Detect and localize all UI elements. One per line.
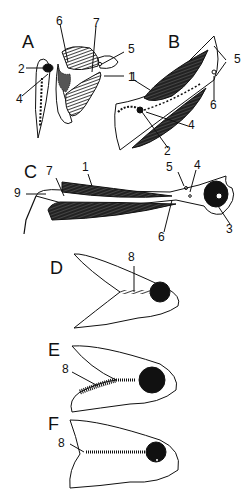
label-a-2: 2 <box>18 62 25 76</box>
label-c-9: 9 <box>14 186 21 200</box>
label-a-6: 6 <box>56 14 63 28</box>
panel-e-drawing <box>71 346 177 412</box>
diagram-canvas <box>0 0 252 498</box>
panel-f-drawing <box>70 420 179 488</box>
label-a-5: 5 <box>128 42 135 56</box>
label-d-8: 8 <box>128 250 135 264</box>
label-f-8: 8 <box>58 436 65 450</box>
panel-label-f: F <box>48 414 59 435</box>
label-c-3: 3 <box>226 222 233 236</box>
panel-label-d: D <box>50 258 63 279</box>
label-b-1: 1 <box>130 70 137 84</box>
label-e-8: 8 <box>62 362 69 376</box>
panel-a-drawing <box>35 47 118 138</box>
label-a-4: 4 <box>16 92 23 106</box>
label-a-7: 7 <box>93 16 100 30</box>
panel-label-e: E <box>48 340 60 361</box>
label-c-1: 1 <box>82 160 89 174</box>
label-c-7: 7 <box>46 164 53 178</box>
panel-label-b: B <box>168 32 180 53</box>
label-c-4: 4 <box>194 158 201 172</box>
panel-d-drawing <box>74 254 179 328</box>
panel-label-a: A <box>22 32 34 53</box>
label-b-5: 5 <box>234 52 241 66</box>
label-b-6: 6 <box>210 98 217 112</box>
label-b-2: 2 <box>164 144 171 158</box>
label-c-5: 5 <box>166 160 173 174</box>
label-c-6: 6 <box>158 230 165 244</box>
panel-label-c: C <box>24 162 37 183</box>
panel-c-drawing <box>24 176 234 234</box>
label-b-4: 4 <box>188 118 195 132</box>
